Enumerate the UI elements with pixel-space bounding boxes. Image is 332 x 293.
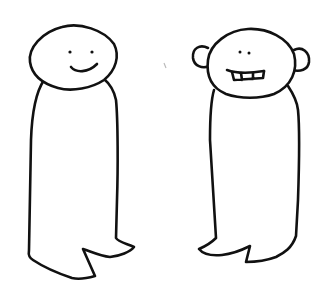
right-figure-eye-left (239, 51, 242, 54)
right-figure-body (199, 86, 299, 262)
right-figure-eye-right (248, 52, 251, 55)
right-figure (193, 29, 309, 262)
sketch-canvas (0, 0, 332, 293)
left-figure-eye-right (90, 50, 93, 53)
right-figure-head (208, 29, 296, 98)
left-figure-eye-left (68, 50, 71, 53)
left-figure-body (29, 79, 134, 279)
left-figure (29, 26, 134, 279)
left-figure-head (30, 26, 117, 90)
stray-mark (164, 63, 166, 68)
